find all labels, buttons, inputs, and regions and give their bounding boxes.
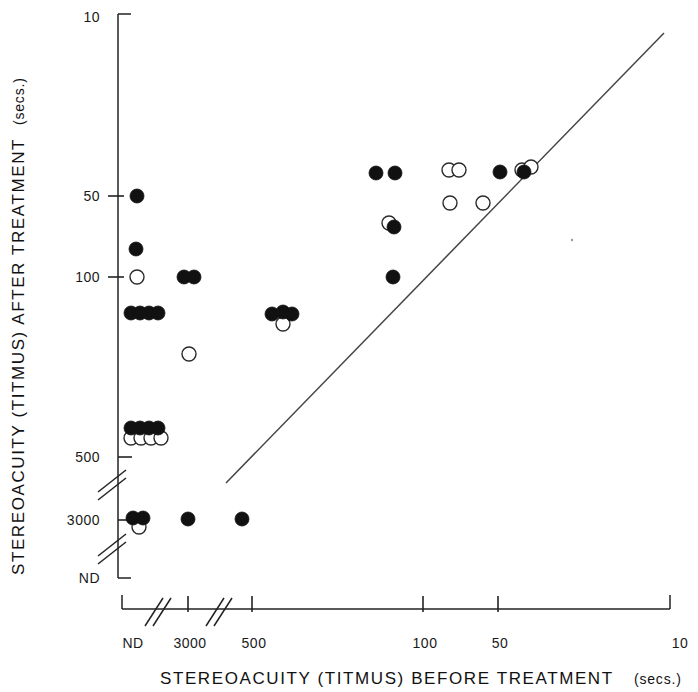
- x-ticklabel-10: 10: [672, 635, 689, 651]
- y-ticklabel-10: 10: [83, 9, 100, 25]
- data-point: [517, 165, 531, 179]
- y-ticklabel-50: 50: [83, 188, 100, 204]
- scatter-plot-figure: 10 50 100 500 3000 ND STEREOACUITY (TITM…: [0, 0, 698, 692]
- data-point: [493, 165, 507, 179]
- data-point: [130, 270, 144, 284]
- y-ticklabel-3000: 3000: [67, 512, 100, 528]
- y-ticklabel-500: 500: [75, 449, 100, 465]
- data-point: [476, 196, 490, 210]
- data-point: [187, 270, 201, 284]
- data-point: [130, 189, 144, 203]
- data-point: [369, 166, 383, 180]
- x-ticklabel-nd: ND: [122, 635, 143, 651]
- data-points-layer: [124, 160, 573, 534]
- x-axis-title-units: (secs.): [634, 671, 682, 687]
- data-point: [388, 166, 402, 180]
- scan-artifact: [571, 239, 573, 241]
- data-point: [181, 512, 195, 526]
- data-point: [443, 196, 457, 210]
- x-axis-break-left: [145, 598, 171, 626]
- x-axis-title: STEREOACUITY (TITMUS) BEFORE TREATMENT: [160, 669, 614, 688]
- y-ticklabel-nd: ND: [79, 570, 100, 586]
- data-point: [386, 270, 400, 284]
- y-axis: 10 50 100 500 3000 ND STEREOACUITY (TITM…: [9, 0, 132, 586]
- y-axis-break-lower: [98, 534, 126, 564]
- data-point: [387, 220, 401, 234]
- data-point: [452, 163, 466, 177]
- data-point: [136, 511, 150, 525]
- x-axis: ND 3000 500 100 50 10 STEREOACUITY (TITM…: [122, 595, 688, 688]
- data-point: [129, 242, 143, 256]
- x-ticklabel-100: 100: [413, 635, 438, 651]
- x-ticklabel-50: 50: [492, 635, 509, 651]
- y-axis-title: STEREOACUITY (TITMUS) AFTER TREATMENT: [9, 138, 28, 575]
- y-axis-title-units: (secs.): [11, 77, 27, 125]
- data-point: [151, 421, 165, 435]
- x-ticklabel-500: 500: [242, 635, 267, 651]
- data-point: [235, 512, 249, 526]
- data-point: [182, 347, 196, 361]
- y-axis-break-upper: [98, 470, 126, 500]
- data-point: [151, 306, 165, 320]
- x-ticklabel-3000: 3000: [173, 635, 206, 651]
- reference-line-no-change: [226, 33, 664, 483]
- plot-canvas: 10 50 100 500 3000 ND STEREOACUITY (TITM…: [0, 0, 698, 692]
- y-ticklabel-100: 100: [75, 269, 100, 285]
- x-axis-break-right: [206, 598, 232, 626]
- data-point: [285, 307, 299, 321]
